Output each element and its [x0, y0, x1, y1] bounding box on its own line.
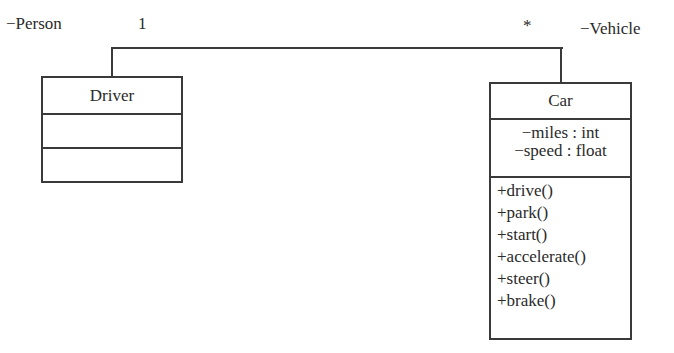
- car-attribute-speed: −speed : float: [491, 142, 630, 160]
- right-multiplicity-label: *: [523, 17, 532, 34]
- right-role-label: −Vehicle: [580, 20, 641, 37]
- car-operation-park: +park(): [497, 202, 630, 224]
- left-role-label: −Person: [6, 15, 62, 32]
- car-operation-accelerate: +accelerate(): [497, 246, 630, 268]
- class-driver[interactable]: Driver: [41, 76, 183, 183]
- driver-operations-compartment: [43, 149, 181, 181]
- uml-class-diagram: −Person 1 * −Vehicle Driver Car −miles :…: [0, 0, 674, 353]
- class-car[interactable]: Car −miles : int −speed : float +drive()…: [489, 82, 632, 340]
- car-operations-compartment: +drive() +park() +start() +accelerate() …: [491, 178, 630, 338]
- car-operation-brake: +brake(): [497, 290, 630, 312]
- car-name-compartment: Car: [491, 84, 630, 120]
- association-line-left-vertical: [111, 47, 113, 77]
- driver-attributes-compartment: [43, 115, 181, 149]
- left-multiplicity-label: 1: [138, 15, 147, 32]
- association-line-horizontal: [111, 47, 563, 49]
- car-class-name: Car: [548, 91, 573, 111]
- association-line-right-vertical: [560, 47, 562, 83]
- driver-class-name: Driver: [90, 86, 134, 106]
- car-attribute-miles: −miles : int: [491, 124, 630, 142]
- car-operation-steer: +steer(): [497, 268, 630, 290]
- driver-name-compartment: Driver: [43, 78, 181, 115]
- car-attributes-compartment: −miles : int −speed : float: [491, 120, 630, 178]
- car-operation-start: +start(): [497, 224, 630, 246]
- car-operation-drive: +drive(): [497, 180, 630, 202]
